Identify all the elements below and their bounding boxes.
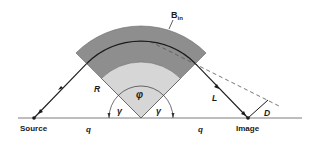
distance-label: D bbox=[264, 108, 270, 118]
length-label: L bbox=[212, 93, 217, 103]
source-point bbox=[32, 116, 36, 120]
trajectory-in bbox=[34, 64, 87, 118]
bend-angle-label: φ bbox=[136, 89, 143, 100]
image-point bbox=[246, 116, 250, 120]
edge-angle-left-label: γ bbox=[117, 106, 123, 116]
image-label: Image bbox=[236, 124, 260, 133]
radius-label: R bbox=[94, 84, 101, 94]
arrow-head-icon bbox=[108, 113, 111, 118]
arrow-head-icon bbox=[172, 113, 175, 118]
magnet-optics-diagram: Bin R L D φ γ γ q q Source Image bbox=[0, 0, 311, 141]
field-label: Bin bbox=[171, 10, 183, 21]
field-leader-line bbox=[169, 20, 173, 29]
edge-angle-right-label: γ bbox=[156, 106, 162, 116]
q-right-label: q bbox=[198, 125, 203, 134]
trajectory-out bbox=[195, 64, 248, 118]
source-label: Source bbox=[20, 124, 48, 133]
q-left-label: q bbox=[86, 125, 91, 134]
